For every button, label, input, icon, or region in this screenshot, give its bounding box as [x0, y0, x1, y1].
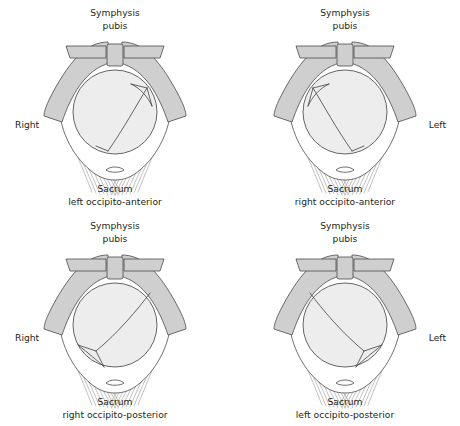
- label-position: left occipito-anterior: [68, 196, 162, 207]
- label-sacrum: Sacrum: [97, 183, 132, 194]
- pubic-ramus-left: [66, 259, 106, 271]
- label-sacrum: Sacrum: [327, 396, 362, 407]
- panel-bottom-left: Symphysis pubis Right Sacrum right occip…: [0, 213, 230, 426]
- coccyx: [106, 380, 124, 385]
- coccyx: [336, 380, 354, 385]
- label-symphysis-line1: Symphysis: [320, 220, 370, 231]
- fetal-head: [73, 283, 157, 367]
- label-symphysis-line1: Symphysis: [90, 7, 140, 18]
- pelvis-diagram-top-left: [44, 42, 186, 195]
- label-symphysis-line2: pubis: [103, 233, 128, 244]
- panel-bottom-right: Symphysis pubis Left Sacrum left occipit…: [230, 213, 460, 426]
- pelvis-diagram-bottom-right: [274, 255, 416, 408]
- panel-top-left: Symphysis pubis Right Sacrum left occipi…: [0, 0, 230, 213]
- pubic-ramus-right: [124, 46, 164, 58]
- label-symphysis-line1: Symphysis: [320, 7, 370, 18]
- symphysis-pubis-joint: [107, 44, 123, 66]
- coccyx: [106, 167, 124, 172]
- label-side-right: Right: [15, 119, 40, 130]
- pubic-ramus-right: [296, 259, 336, 271]
- label-position: right occipito-posterior: [62, 409, 167, 420]
- pubic-ramus-left: [66, 46, 106, 58]
- fetal-head: [303, 283, 387, 367]
- pubic-ramus-right: [124, 259, 164, 271]
- label-position: right occipito-anterior: [295, 196, 396, 207]
- label-side-right: Right: [15, 332, 40, 343]
- fetal-head: [303, 70, 387, 154]
- pubic-ramus-left: [354, 46, 394, 58]
- label-side-left: Left: [429, 119, 447, 130]
- pelvis-diagram-top-right: [274, 42, 416, 195]
- pubic-ramus-right: [296, 46, 336, 58]
- symphysis-pubis-joint: [107, 257, 123, 279]
- label-symphysis-line2: pubis: [103, 20, 128, 31]
- label-side-left: Left: [429, 332, 447, 343]
- coccyx: [336, 167, 354, 172]
- symphysis-pubis-joint: [337, 44, 353, 66]
- label-symphysis-line2: pubis: [333, 20, 358, 31]
- fetal-position-figure: Symphysis pubis Right Sacrum left occipi…: [0, 0, 460, 426]
- label-sacrum: Sacrum: [97, 396, 132, 407]
- label-position: left occipito-posterior: [296, 409, 395, 420]
- label-sacrum: Sacrum: [327, 183, 362, 194]
- fetal-head: [73, 70, 157, 154]
- symphysis-pubis-joint: [337, 257, 353, 279]
- pubic-ramus-left: [354, 259, 394, 271]
- label-symphysis-line2: pubis: [333, 233, 358, 244]
- label-symphysis-line1: Symphysis: [90, 220, 140, 231]
- pelvis-diagram-bottom-left: [44, 255, 186, 408]
- panel-top-right: Symphysis pubis Left Sacrum right occipi…: [230, 0, 460, 213]
